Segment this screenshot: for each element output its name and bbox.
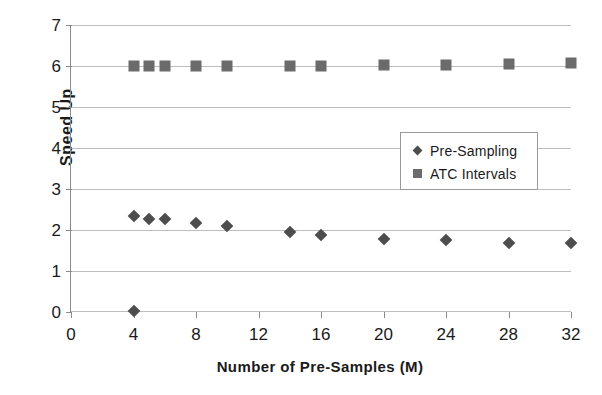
data-point-square xyxy=(159,61,170,72)
x-axis-tick-label: 32 xyxy=(562,326,581,343)
x-axis-tick xyxy=(571,312,572,318)
gridline xyxy=(71,107,571,108)
data-point-square xyxy=(316,61,327,72)
diamond-icon xyxy=(409,147,425,154)
data-point-square xyxy=(144,61,155,72)
x-axis-tick-label: 4 xyxy=(129,326,138,343)
data-point-square xyxy=(441,59,452,70)
chart-figure: Speed Up Number of Pre-Samples (M) 01234… xyxy=(0,0,602,395)
y-axis-tick-label: 1 xyxy=(52,263,61,280)
data-point-diamond xyxy=(190,217,203,230)
x-axis-tick-label: 28 xyxy=(499,326,518,343)
data-point-square xyxy=(191,61,202,72)
x-axis-tick xyxy=(384,312,385,318)
x-axis-tick-label: 8 xyxy=(191,326,200,343)
gridline xyxy=(71,271,571,272)
gridline xyxy=(71,25,571,26)
legend-label: ATC Intervals xyxy=(430,166,516,182)
legend-label: Pre-Sampling xyxy=(430,143,517,159)
y-axis-tick xyxy=(66,148,72,149)
data-point-diamond xyxy=(502,237,515,250)
y-axis-tick-label: 6 xyxy=(52,58,61,75)
y-axis-tick xyxy=(66,230,72,231)
legend-item-atc-intervals: ATC Intervals xyxy=(409,162,537,185)
x-axis-tick xyxy=(446,312,447,318)
data-point-square xyxy=(284,61,295,72)
y-axis-tick-label: 7 xyxy=(52,17,61,34)
data-point-diamond xyxy=(377,233,390,246)
x-axis-tick-label: 16 xyxy=(312,326,331,343)
y-axis-tick-label: 0 xyxy=(52,304,61,321)
x-axis-tick xyxy=(321,312,322,318)
y-axis-tick xyxy=(66,189,72,190)
data-point-square xyxy=(503,58,514,69)
data-point-square xyxy=(128,61,139,72)
y-axis-tick xyxy=(66,25,72,26)
data-point-diamond xyxy=(158,213,171,226)
x-axis-tick xyxy=(71,312,72,318)
y-axis-tick xyxy=(66,107,72,108)
x-axis-tick-label: 0 xyxy=(66,326,75,343)
y-axis-tick-label: 2 xyxy=(52,222,61,239)
data-point-diamond xyxy=(143,213,156,226)
x-axis-tick xyxy=(259,312,260,318)
x-axis-tick-label: 20 xyxy=(374,326,393,343)
y-axis-tick-label: 4 xyxy=(52,140,61,157)
y-axis-tick-label: 3 xyxy=(52,181,61,198)
y-axis-tick xyxy=(66,66,72,67)
data-point-diamond xyxy=(440,234,453,247)
legend-item-pre-sampling: Pre-Sampling xyxy=(409,139,537,162)
square-icon xyxy=(409,169,425,178)
data-point-diamond xyxy=(565,237,578,250)
x-axis-tick xyxy=(509,312,510,318)
y-axis-tick-label: 5 xyxy=(52,99,61,116)
data-point-square xyxy=(222,61,233,72)
data-point-square xyxy=(378,59,389,70)
chart-legend: Pre-Sampling ATC Intervals xyxy=(400,132,538,190)
data-point-diamond xyxy=(127,209,140,222)
data-point-square xyxy=(566,58,577,69)
data-point-diamond xyxy=(127,304,140,317)
x-axis-tick-label: 12 xyxy=(249,326,268,343)
y-axis-tick xyxy=(66,271,72,272)
x-axis-title: Number of Pre-Samples (M) xyxy=(70,358,570,375)
data-point-diamond xyxy=(283,226,296,239)
x-axis-tick-label: 24 xyxy=(437,326,456,343)
x-axis-tick xyxy=(196,312,197,318)
